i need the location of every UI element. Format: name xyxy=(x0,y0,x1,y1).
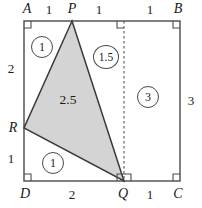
right-angle-A xyxy=(24,21,31,28)
geometry-figure: A P B R D Q C 1 1 1 2 1 3 2 1 1 1.5 3 1 … xyxy=(0,0,202,208)
vertex-label-c: C xyxy=(173,187,182,201)
region-label-pqcb: 3 xyxy=(137,86,159,108)
region-label-pq-upper: 1.5 xyxy=(93,45,119,69)
right-angle-D xyxy=(24,174,31,181)
edge-label-left-ar: 2 xyxy=(8,62,15,75)
region-label-rdq: 1 xyxy=(42,152,64,174)
right-angle-C xyxy=(173,174,180,181)
right-angle-B xyxy=(173,21,180,28)
edge-label-bottom-dq: 2 xyxy=(69,188,76,201)
vertex-label-r: R xyxy=(9,121,18,135)
vertex-label-q: Q xyxy=(118,187,128,201)
figure-canvas xyxy=(0,0,202,208)
triangle-area-label: 2.5 xyxy=(60,93,77,107)
edge-label-top-ap: 1 xyxy=(46,3,53,16)
right-angle-Q-top xyxy=(117,21,124,28)
edge-label-bottom-qc: 1 xyxy=(147,188,154,201)
region-label-apr: 1 xyxy=(31,36,53,58)
edge-label-top-qb: 1 xyxy=(147,3,154,16)
edge-label-right-bc: 3 xyxy=(188,94,195,107)
edge-label-top-pq-left: 1 xyxy=(96,3,103,16)
edge-label-left-rd: 1 xyxy=(8,152,15,165)
vertex-label-b: B xyxy=(174,2,183,16)
right-angle-Q-right xyxy=(124,174,131,181)
vertex-label-p: P xyxy=(68,2,77,16)
vertex-label-a: A xyxy=(23,2,32,16)
vertex-label-d: D xyxy=(20,187,30,201)
